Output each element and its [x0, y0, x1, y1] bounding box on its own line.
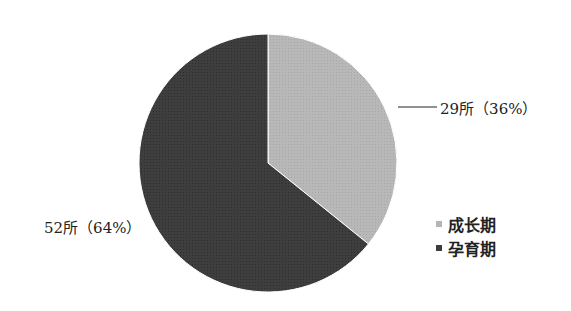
legend-label: 孕育期 — [448, 236, 496, 260]
legend: 成长期 孕育期 — [436, 212, 496, 260]
legend-item-growth: 成长期 — [436, 212, 496, 236]
pie-chart — [0, 0, 571, 311]
legend-swatch-icon — [436, 245, 442, 251]
legend-item-incubation: 孕育期 — [436, 236, 496, 260]
legend-label: 成长期 — [448, 212, 496, 236]
legend-swatch-icon — [436, 221, 442, 227]
data-label-incubation: 52所（64%） — [44, 216, 141, 237]
data-label-growth: 29所（36%） — [440, 97, 537, 118]
